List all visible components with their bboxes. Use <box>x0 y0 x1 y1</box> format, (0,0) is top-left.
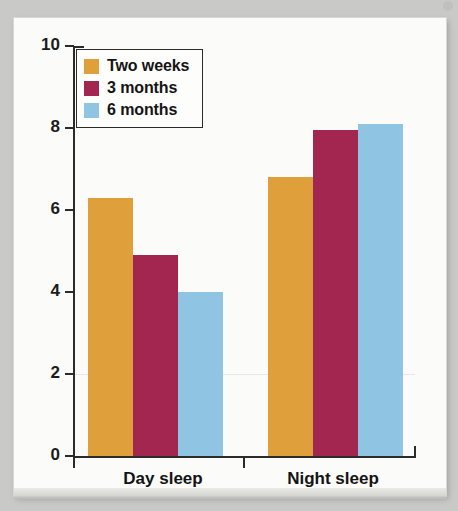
x-tick-middle <box>243 456 245 468</box>
y-tick-2 <box>65 373 74 375</box>
y-tick-label-10: 10 <box>20 35 60 55</box>
bars-layer <box>0 0 458 458</box>
x-axis-right-cap <box>414 446 416 458</box>
bar-night-sleep-two-weeks <box>268 177 313 456</box>
legend-swatch-3-months <box>84 81 99 96</box>
bar-chart: 0246810 Day sleep Night sleep Two weeks … <box>0 0 458 511</box>
y-tick-label-6: 6 <box>20 199 60 219</box>
y-axis-top-cap <box>73 46 84 48</box>
bar-day-sleep-two-weeks <box>88 198 133 456</box>
figure-page: 0246810 Day sleep Night sleep Two weeks … <box>0 0 458 511</box>
y-axis-line <box>73 46 75 458</box>
legend: Two weeks 3 months 6 months <box>76 49 203 128</box>
x-category-label-night-sleep: Night sleep <box>253 469 413 489</box>
y-tick-8 <box>65 127 74 129</box>
y-tick-label-2: 2 <box>20 363 60 383</box>
y-tick-4 <box>65 291 74 293</box>
y-tick-label-4: 4 <box>20 281 60 301</box>
legend-item-two-weeks[interactable]: Two weeks <box>84 55 195 77</box>
y-tick-label-8: 8 <box>20 117 60 137</box>
x-category-label-day-sleep: Day sleep <box>83 469 243 489</box>
legend-label-3-months: 3 months <box>107 79 177 97</box>
bar-night-sleep-3-months <box>313 130 358 456</box>
x-tick-left <box>73 456 75 468</box>
bar-day-sleep-6-months <box>178 292 223 456</box>
bar-night-sleep-6-months <box>358 124 403 456</box>
legend-label-two-weeks: Two weeks <box>107 57 189 75</box>
y-tick-6 <box>65 209 74 211</box>
legend-item-6-months[interactable]: 6 months <box>84 99 195 121</box>
legend-label-6-months: 6 months <box>107 101 177 119</box>
legend-item-3-months[interactable]: 3 months <box>84 77 195 99</box>
legend-swatch-6-months <box>84 103 99 118</box>
y-tick-10 <box>65 45 74 47</box>
bar-day-sleep-3-months <box>133 255 178 456</box>
legend-swatch-two-weeks <box>84 59 99 74</box>
y-tick-label-0: 0 <box>20 445 60 465</box>
